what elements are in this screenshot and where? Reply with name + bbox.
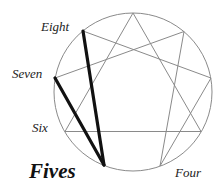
label-fives: Fives	[28, 159, 76, 183]
label-seven: Seven	[12, 66, 42, 81]
triangle-9-3-6	[65, 13, 201, 132]
label-eight: Eight	[40, 19, 70, 34]
label-four: Four	[174, 165, 202, 180]
hexad-1-4-2-8-5-7	[55, 31, 211, 166]
enneagram-diagram: Eight Seven Six Fives Four	[0, 0, 222, 190]
label-six: Six	[32, 120, 48, 135]
enneagram-circle	[54, 13, 212, 171]
